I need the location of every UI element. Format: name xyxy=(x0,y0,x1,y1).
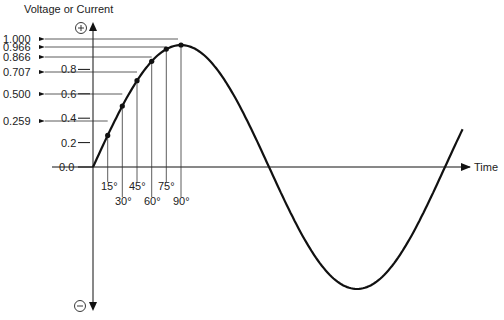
y-tick-label: 0.2 xyxy=(61,137,76,149)
angle-label: 90° xyxy=(173,195,190,207)
value-label: 0.259 xyxy=(3,115,31,127)
negative-symbol-icon xyxy=(75,301,86,312)
y-axis-down-arrow-icon xyxy=(89,302,97,311)
sine-wave-diagram: Voltage or Current Time 0.0 0.2 0.4 0.6 … xyxy=(0,0,504,320)
y-ticks: 0.0 0.2 0.4 0.6 0.8 xyxy=(59,63,93,173)
value-labels: 1.000 0.966 0.866 0.707 0.500 0.259 xyxy=(3,33,31,127)
angle-label: 15° xyxy=(101,180,118,192)
angle-labels: 15° 30° 45° 60° 75° 90° xyxy=(101,180,190,207)
positive-symbol-icon xyxy=(76,23,87,34)
angle-label: 60° xyxy=(144,195,161,207)
y-tick-label: 0.6 xyxy=(61,88,76,100)
y-tick-label: 0.8 xyxy=(61,63,76,75)
y-tick-label: 0.4 xyxy=(61,112,76,124)
y-axis-title: Voltage or Current xyxy=(24,3,113,15)
x-axis-title: Time xyxy=(474,161,498,173)
angle-label: 45° xyxy=(129,180,146,192)
angle-label: 75° xyxy=(158,180,175,192)
y-axis-up-arrow-icon xyxy=(89,22,97,31)
y-tick-label: 0.0 xyxy=(59,161,74,173)
value-label: 0.500 xyxy=(3,88,31,100)
angle-label: 30° xyxy=(115,195,132,207)
value-label: 0.866 xyxy=(3,51,31,63)
value-label: 0.707 xyxy=(3,66,31,78)
